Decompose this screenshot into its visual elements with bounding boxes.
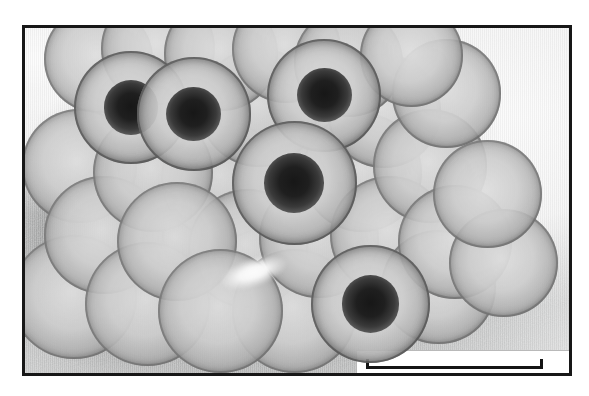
virus-particle xyxy=(137,57,251,171)
virus-particle xyxy=(433,140,542,248)
capsid-rim xyxy=(137,57,251,171)
micrograph-frame xyxy=(22,25,572,376)
capsid-rim xyxy=(232,121,357,245)
micrograph-plate xyxy=(25,28,569,373)
scale-bar-line xyxy=(366,366,543,369)
capsid-rim xyxy=(311,245,431,364)
figure-canvas xyxy=(0,0,589,396)
capsid-rim xyxy=(433,140,542,248)
scale-bar-cap-right-icon xyxy=(540,359,543,369)
virus-particle xyxy=(311,245,431,364)
virus-particle xyxy=(232,121,357,245)
